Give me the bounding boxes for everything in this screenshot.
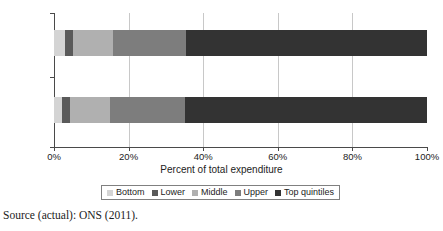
x-tick-label: 0% [47, 151, 61, 162]
x-tick-label: 60% [268, 151, 287, 162]
legend-swatch-icon [152, 190, 158, 196]
x-tick-label: 100% [415, 151, 439, 162]
bar-segment-model-bottom [54, 30, 65, 56]
bar-segment-actual-lower [62, 97, 69, 123]
y-tick-mark [50, 147, 54, 148]
legend-label: Upper [244, 188, 269, 197]
x-tick-label: 40% [194, 151, 213, 162]
bar-segment-model-top-quintiles [186, 30, 427, 56]
legend-entry-middle: Middle [192, 188, 228, 197]
bar-row-actual [54, 97, 427, 123]
bar-segment-actual-middle [70, 97, 110, 123]
legend-label: Bottom [116, 188, 145, 197]
bar-segment-actual-bottom [54, 97, 62, 123]
source-note: Source (actual): ONS (2011). [3, 209, 138, 221]
x-tick-label: 80% [343, 151, 362, 162]
bar-segment-model-lower [65, 30, 72, 56]
legend-label: Lower [161, 188, 186, 197]
bar-segment-actual-top-quintiles [185, 97, 427, 123]
x-axis-line [54, 147, 428, 148]
legend-label: Top quintiles [284, 188, 334, 197]
legend-swatch-icon [192, 190, 198, 196]
x-tick-label: 20% [119, 151, 138, 162]
legend-swatch-icon [107, 190, 113, 196]
bar-segment-model-upper [113, 30, 186, 56]
figure-container: 0%20%40%60%80%100% ModelActual Percent o… [0, 0, 443, 231]
legend-entry-top-quintiles: Top quintiles [275, 188, 334, 197]
chart-legend: BottomLowerMiddleUpperTop quintiles [101, 185, 340, 200]
bar-row-model [54, 30, 427, 56]
legend-label: Middle [201, 188, 228, 197]
x-axis-title: Percent of total expenditure [0, 164, 443, 175]
legend-entry-bottom: Bottom [107, 188, 145, 197]
legend-entry-upper: Upper [235, 188, 269, 197]
plot-area [54, 13, 427, 147]
legend-entry-lower: Lower [152, 188, 186, 197]
legend-swatch-icon [275, 190, 281, 196]
legend-swatch-icon [235, 190, 241, 196]
bar-segment-model-middle [73, 30, 113, 56]
bar-segment-actual-upper [110, 97, 185, 123]
